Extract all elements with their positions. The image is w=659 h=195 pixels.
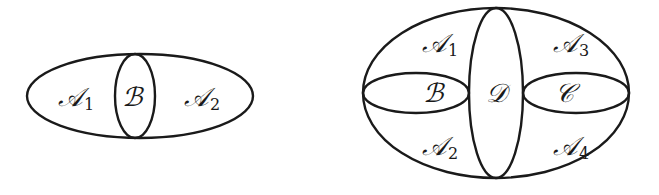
set-c-ellipse bbox=[523, 73, 629, 113]
label-a3: 𝒜3 bbox=[553, 28, 589, 60]
label-a4: 𝒜4 bbox=[553, 131, 589, 163]
label-a1: 𝒜1 bbox=[422, 28, 458, 60]
diagram-canvas: 𝒜1 ℬ 𝒜2 𝒜1 𝒜3 ℬ 𝒟 𝒞 𝒜2 𝒜4 bbox=[0, 0, 659, 195]
label-a2: 𝒜2 bbox=[184, 82, 220, 114]
label-a1: 𝒜1 bbox=[58, 82, 94, 114]
left-diagram: 𝒜1 ℬ 𝒜2 bbox=[27, 54, 253, 138]
label-b: ℬ bbox=[423, 78, 445, 108]
label-a2: 𝒜2 bbox=[422, 131, 458, 163]
label-d: 𝒟 bbox=[486, 78, 511, 108]
right-diagram: 𝒜1 𝒜3 ℬ 𝒟 𝒞 𝒜2 𝒜4 bbox=[363, 8, 629, 178]
label-b: ℬ bbox=[122, 82, 144, 112]
set-b-ellipse bbox=[363, 73, 469, 113]
label-c: 𝒞 bbox=[555, 78, 581, 108]
